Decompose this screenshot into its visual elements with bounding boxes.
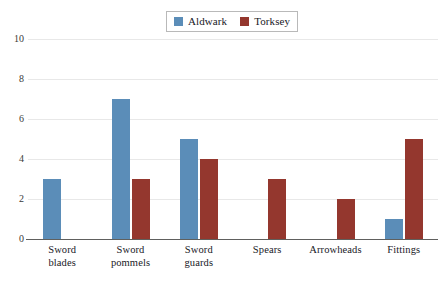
x-axis-tick-label-line: Sword [28,244,96,257]
x-axis-tick-label: Swordpommels [96,244,164,269]
x-axis-tick-label: Spears [233,244,301,257]
y-axis-tick-label: 10 [0,34,24,44]
x-axis-tick-label: Swordguards [165,244,233,269]
x-axis-tick-label-line: blades [28,257,96,270]
legend-entry-torksey[interactable]: Torksey [240,16,290,27]
bar-torksey-sword-pommels[interactable] [132,179,150,239]
bar-torksey-spears[interactable] [268,179,286,239]
legend-entry-aldwark[interactable]: Aldwark [174,16,227,27]
y-axis: 0246810 [0,39,24,239]
bar-torksey-fittings[interactable] [405,139,423,239]
bar-chart: Aldwark Torksey 0246810 SwordbladesSword… [0,0,448,285]
y-axis-tick-label: 4 [0,154,24,164]
bar-aldwark-sword-guards[interactable] [180,139,198,239]
x-axis-tick-label-line: Sword [96,244,164,257]
x-axis-tick-label-line: pommels [96,257,164,270]
bars-layer [28,39,438,239]
chart-legend: Aldwark Torksey [166,11,298,32]
x-axis-tick-label-line: Sword [165,244,233,257]
y-axis-tick-label: 0 [0,234,24,244]
legend-label-torksey: Torksey [254,16,290,27]
bar-aldwark-sword-pommels[interactable] [112,99,130,239]
x-axis-labels: SwordbladesSwordpommelsSwordguardsSpears… [28,244,438,280]
y-axis-tick-label: 6 [0,114,24,124]
bar-torksey-arrowheads[interactable] [337,199,355,239]
x-axis-line [26,239,438,240]
x-axis-tick-label-line: Fittings [370,244,438,257]
x-axis-tick-label: Fittings [370,244,438,257]
y-axis-tick-label: 8 [0,74,24,84]
x-axis-tick-label-line: Arrowheads [301,244,369,257]
bar-aldwark-fittings[interactable] [385,219,403,239]
y-axis-tick-label: 2 [0,194,24,204]
x-axis-tick-label-line: Spears [233,244,301,257]
bar-aldwark-sword-blades[interactable] [43,179,61,239]
legend-swatch-torksey [240,17,249,26]
x-axis-tick-label: Arrowheads [301,244,369,257]
bar-torksey-sword-guards[interactable] [200,159,218,239]
x-axis-tick-label: Swordblades [28,244,96,269]
x-axis-tick-label-line: guards [165,257,233,270]
legend-label-aldwark: Aldwark [188,16,227,27]
legend-swatch-aldwark [174,17,183,26]
